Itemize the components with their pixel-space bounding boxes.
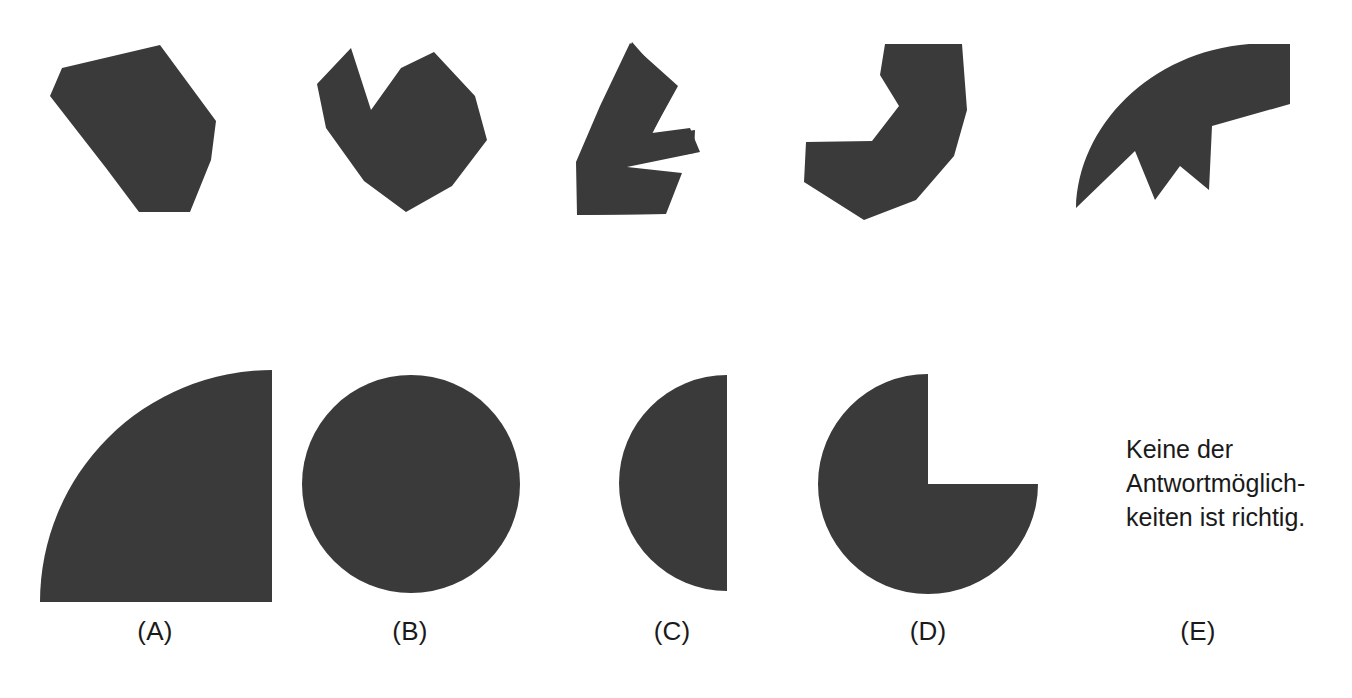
option-b-full-circle[interactable]: [302, 375, 520, 593]
shapes-canvas: [0, 0, 1352, 698]
piece-5-curved-crescent: [1076, 44, 1290, 208]
option-c-half-circle[interactable]: [619, 375, 727, 591]
piece-1-hexagon-wedge: [50, 45, 216, 212]
option-label-e: (E): [1138, 618, 1258, 644]
piece-3-zigzag-arrow-body: [578, 42, 695, 215]
option-label-b: (B): [350, 618, 470, 644]
piece-4-hooked-band: [804, 44, 967, 220]
option-d-three-quarter-circle[interactable]: [818, 374, 1038, 594]
option-e-line-3: keiten ist richtig.: [1126, 500, 1336, 534]
option-label-c: (C): [612, 618, 732, 644]
option-label-d: (D): [868, 618, 988, 644]
piece-2-notched-v: [317, 48, 487, 212]
option-e-line-2: Antwortmöglich-: [1126, 466, 1336, 500]
option-label-a: (A): [95, 618, 215, 644]
option-a-quarter-circle[interactable]: [40, 370, 272, 602]
piece-3-zigzag-arrow: [576, 43, 700, 215]
spatial-reasoning-question: Keine der Antwortmöglich- keiten ist ric…: [0, 0, 1352, 698]
option-e-text-block[interactable]: Keine der Antwortmöglich- keiten ist ric…: [1126, 432, 1336, 534]
option-e-line-1: Keine der: [1126, 432, 1336, 466]
